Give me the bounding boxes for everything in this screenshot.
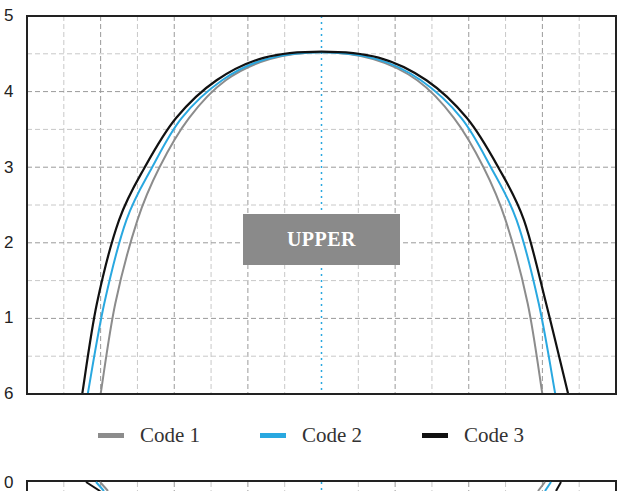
legend-item-code-1: Code 1 bbox=[98, 420, 200, 450]
legend-swatch-code-3 bbox=[422, 433, 448, 438]
upper-annotation-label: UPPER bbox=[243, 214, 400, 265]
lower-panel-curve-segment bbox=[556, 482, 561, 491]
chart-legend: Code 1 Code 2 Code 3 bbox=[0, 420, 622, 450]
legend-label-code-2: Code 2 bbox=[302, 423, 362, 448]
lower-panel-y-tick: 0 bbox=[4, 474, 13, 491]
lower-panel-curve-segment bbox=[545, 482, 551, 491]
lower-panel-curve-segment bbox=[538, 482, 545, 491]
y-tick-0: 6 bbox=[4, 385, 13, 402]
y-tick-3: 3 bbox=[4, 159, 13, 176]
y-tick-1: 1 bbox=[4, 309, 13, 326]
legend-label-code-1: Code 1 bbox=[140, 423, 200, 448]
legend-item-code-2: Code 2 bbox=[260, 420, 362, 450]
legend-swatch-code-2 bbox=[260, 433, 286, 438]
legend-item-code-3: Code 3 bbox=[422, 420, 524, 450]
legend-label-code-3: Code 3 bbox=[464, 423, 524, 448]
y-tick-4: 4 bbox=[4, 83, 13, 100]
y-tick-2: 2 bbox=[4, 234, 13, 251]
y-tick-5: 5 bbox=[4, 7, 13, 24]
legend-swatch-code-1 bbox=[98, 433, 124, 438]
